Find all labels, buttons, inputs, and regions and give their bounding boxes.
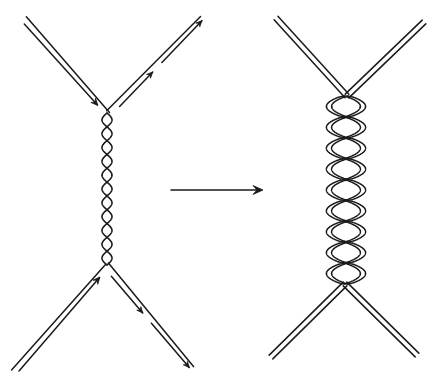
transition-arrow (171, 186, 263, 195)
double-line-strand (274, 20, 345, 98)
bottom-right-leg (108, 263, 193, 368)
gluon-line (102, 113, 112, 265)
double-line-strand (343, 286, 415, 357)
quark-line-inner-b (151, 323, 189, 367)
feynman-gluon-exchange-diagram (12, 17, 202, 371)
gluon-strand-a (102, 113, 112, 265)
quark-line-outer (26, 17, 109, 113)
gluon-strand-b (102, 113, 112, 265)
bottom-right-leg (343, 282, 419, 357)
quark-line-outer (107, 17, 201, 111)
double-line-strand (273, 286, 347, 359)
braid-strand-2 (332, 96, 361, 284)
double-line-strand (278, 16, 349, 94)
quark-line-inner-a (111, 276, 142, 313)
braided-tube (326, 96, 365, 284)
top-right-leg (345, 20, 426, 98)
top-right-leg (107, 17, 202, 111)
double-line-strand (269, 282, 343, 355)
bottom-left-leg (269, 282, 347, 359)
bottom-left-leg (12, 265, 106, 371)
quark-line-inner-a (120, 72, 153, 107)
double-line-strand (349, 24, 426, 98)
diagram-canvas (0, 0, 435, 380)
braid-strand-0 (332, 96, 361, 284)
top-left-leg (274, 16, 349, 98)
quark-line-inner (19, 278, 99, 371)
quark-line-inner (24, 24, 97, 105)
double-line-strand (345, 20, 422, 94)
top-left-leg (24, 17, 109, 113)
quark-line-inner-b (162, 21, 202, 63)
quark-line-outer (12, 265, 106, 370)
braided-string-diagram (269, 16, 426, 359)
quark-line-outer (108, 263, 193, 367)
double-line-strand (347, 282, 419, 353)
